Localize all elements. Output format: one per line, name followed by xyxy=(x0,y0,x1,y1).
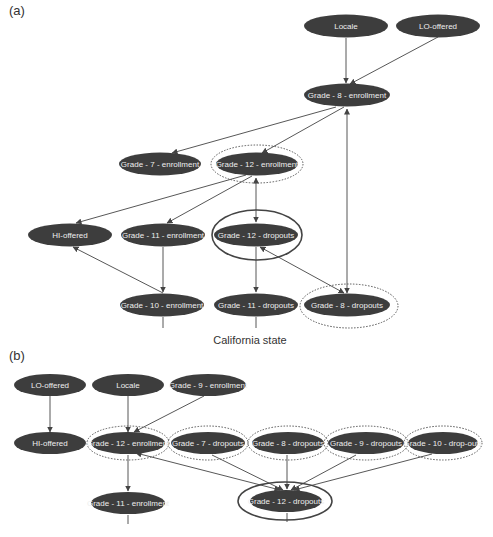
edge-g12enroll-hioffered xyxy=(76,175,246,223)
node-label: Grade - 8 - enrollment xyxy=(308,91,387,100)
edge-g10enroll-hioffered xyxy=(73,247,163,293)
node-label: Grade - 12 - enrollment xyxy=(216,160,299,169)
node-label: LO-offered xyxy=(31,381,69,390)
edge-b-g10drop-g12drop xyxy=(294,454,432,490)
node-label: Locale xyxy=(116,381,140,390)
node-b-grade-12-dropouts: Grade - 12 - dropouts xyxy=(248,490,324,512)
node-a-grade-11-dropouts: Grade - 11 - dropouts xyxy=(214,294,298,317)
node-b-grade-12-enrollment: Grade - 12 - enrollment xyxy=(87,432,170,454)
node-b-grade-9-dropouts: Grade - 9 - dropouts xyxy=(328,432,404,454)
edge-g12drop-g8drop xyxy=(260,247,344,293)
causal-graph-diagram: Locale LO-offered Grade - 8 - enrollment… xyxy=(0,0,493,537)
node-b-locale: Locale xyxy=(92,374,164,396)
node-label: Grade - 11 - enrollment xyxy=(87,499,170,508)
node-label: LO-offered xyxy=(419,22,457,31)
node-label: Grade - 10 - drop-outs xyxy=(403,439,482,448)
node-a-hi-offered: HI-offered xyxy=(28,224,112,247)
node-b-grade-7-dropouts: Grade - 7 - dropouts xyxy=(171,432,245,454)
node-a-grade-8-enrollment: Grade - 8 - enrollment xyxy=(304,84,390,107)
node-a-grade-11-enrollment: Grade - 11 - enrollment xyxy=(121,224,205,247)
node-a-grade-12-dropouts: Grade - 12 - dropouts xyxy=(214,224,298,247)
node-b-grade-9-enrollment: Grade - 9 - enrollment xyxy=(169,374,248,396)
node-label: Grade - 12 - enrollment xyxy=(87,439,170,448)
node-label: HI-offered xyxy=(52,231,87,240)
node-label: Grade - 10 - enrollment xyxy=(121,301,204,310)
edge-b-g9drop-g12drop xyxy=(291,455,356,490)
edge-g12enroll-g11enroll xyxy=(167,176,252,223)
node-label: Grade - 11 - dropouts xyxy=(218,301,294,310)
node-label: Grade - 8 - dropouts xyxy=(311,301,383,310)
edge-lo-g8enroll xyxy=(350,37,438,84)
node-a-grade-12-enrollment: Grade - 12 - enrollment xyxy=(216,153,299,176)
node-label: Grade - 9 - enrollment xyxy=(169,381,248,390)
node-b-lo-offered: LO-offered xyxy=(14,374,86,396)
node-b-grade-10-drop-outs: Grade - 10 - drop-outs xyxy=(403,432,482,454)
edge-g8enroll-g12enroll xyxy=(262,107,344,153)
node-a-grade-7-enrollment: Grade - 7 - enrollment xyxy=(119,153,201,176)
edge-b-g9enroll-g12enroll xyxy=(134,396,204,432)
node-label: Grade - 12 - dropouts xyxy=(248,497,324,506)
node-b-hi-offered: HI-offered xyxy=(14,432,86,454)
edge-g8enroll-g7enroll xyxy=(172,107,336,153)
node-label: Grade - 11 - enrollment xyxy=(122,231,205,240)
node-a-grade-8-dropouts: Grade - 8 - dropouts xyxy=(304,294,390,317)
node-label: Grade - 7 - dropouts xyxy=(172,439,244,448)
node-a-locale: Locale xyxy=(304,15,388,38)
edge-b-g7drop-g12drop xyxy=(212,455,283,490)
node-label: Locale xyxy=(334,22,358,31)
node-label: Grade - 9 - dropouts xyxy=(330,439,402,448)
node-b-grade-8-dropouts: Grade - 8 - dropouts xyxy=(252,432,324,454)
node-a-grade-10-enrollment: Grade - 10 - enrollment xyxy=(120,294,204,317)
node-label: Grade - 12 - dropouts xyxy=(218,231,294,240)
edge-b-g12enroll-g12drop xyxy=(136,453,280,490)
node-label: Grade - 7 - enrollment xyxy=(121,160,200,169)
node-a-lo-offered: LO-offered xyxy=(396,15,480,38)
node-label: Grade - 8 - dropouts xyxy=(252,439,324,448)
node-label: HI-offered xyxy=(32,439,67,448)
node-b-grade-11-enrollment: Grade - 11 - enrollment xyxy=(87,492,170,514)
